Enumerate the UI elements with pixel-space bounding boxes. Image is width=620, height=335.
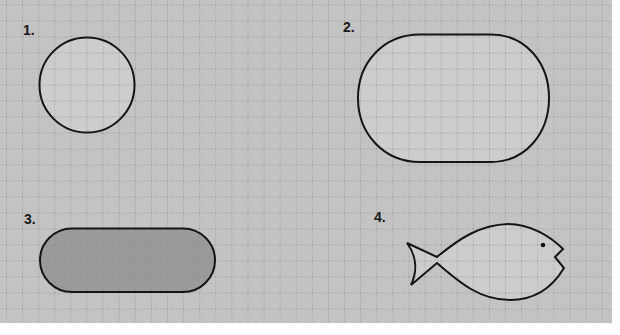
figure-3-label: 3. [24,211,36,227]
figure-1-label: 1. [23,22,35,38]
fish-eye-icon [541,243,546,248]
figure-2-label: 2. [343,19,355,35]
grid-lines [0,0,612,323]
figure-4-label: 4. [374,209,386,225]
grid-paper-diagram: 1. 2. 3. 4. [0,0,620,335]
